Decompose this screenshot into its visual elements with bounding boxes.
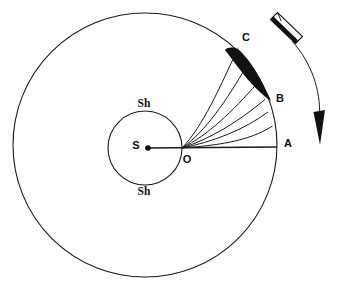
axis-line-s-to-a xyxy=(145,147,277,148)
label-point-c: C xyxy=(242,31,250,43)
label-shell-top: Sh xyxy=(138,97,151,109)
label-shell-bottom: Sh xyxy=(138,185,151,197)
arrow-shaft-curve xyxy=(292,41,320,117)
trajectory-path-6 xyxy=(182,49,238,149)
rotation-direction-arrow xyxy=(271,13,326,146)
label-point-a: A xyxy=(284,137,292,149)
label-origin-o: O xyxy=(183,153,192,165)
trajectory-fan xyxy=(182,49,273,149)
center-dot-s xyxy=(145,145,151,151)
label-center-s: S xyxy=(132,139,139,151)
arrowhead xyxy=(314,110,326,145)
figure-container: Sh Sh S O A B C xyxy=(0,0,338,290)
arrow-fletching-outline xyxy=(271,13,303,44)
label-point-b: B xyxy=(276,92,284,104)
orbital-diagram-svg: Sh Sh S O A B C xyxy=(0,0,338,290)
